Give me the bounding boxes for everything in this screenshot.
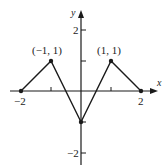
point-neg1-1 [49, 59, 53, 63]
x-tick-label-2: 2 [138, 95, 144, 107]
x-axis-arrow-icon [150, 88, 158, 94]
x-axis [10, 88, 158, 94]
point-1-1 [109, 59, 113, 63]
y-axis [78, 10, 84, 165]
y-tick-label-neg2: −2 [67, 147, 79, 159]
point-label-left: (−1, 1) [32, 44, 62, 57]
point-neg2-0 [19, 89, 23, 93]
point-label-right: (1, 1) [97, 44, 121, 57]
y-axis-arrow-icon [78, 10, 84, 18]
y-axis-label: y [70, 7, 76, 18]
x-tick-label-neg2: −2 [14, 95, 26, 107]
x-axis-label: x [156, 77, 162, 88]
point-2-0 [139, 89, 143, 93]
graph: x y −2 2 2 −2 (−1, 1) (1, 1) [0, 0, 168, 167]
y-tick-label-2: 2 [73, 24, 79, 36]
point-0-neg1 [79, 120, 83, 124]
